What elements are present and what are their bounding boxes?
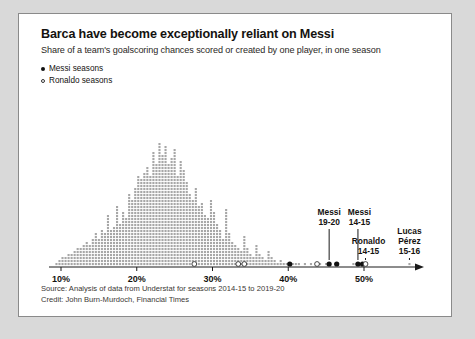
- dot-mark: [137, 260, 139, 262]
- dot-mark: [180, 170, 182, 172]
- dot-mark: [204, 236, 206, 238]
- dot-mark: [128, 260, 130, 262]
- dot-mark: [177, 227, 179, 229]
- dot-mark: [113, 236, 115, 238]
- dot-mark: [110, 236, 112, 238]
- dot-mark: [83, 260, 85, 262]
- dot-mark: [228, 236, 230, 238]
- dot-mark: [225, 227, 227, 229]
- dot-mark: [183, 200, 185, 202]
- dot-mark: [164, 239, 166, 241]
- dot-mark: [183, 236, 185, 238]
- dot-mark: [255, 245, 257, 247]
- dot-mark: [116, 263, 118, 265]
- dot-mark: [319, 263, 321, 265]
- dot-mark: [164, 203, 166, 205]
- dot-mark: [77, 251, 79, 253]
- dot-mark: [168, 173, 170, 175]
- dot-mark: [155, 206, 157, 208]
- x-tick-label: 10%: [52, 274, 70, 284]
- dot-mark: [180, 203, 182, 205]
- dot-mark: [171, 242, 173, 244]
- dot-mark: [240, 260, 242, 262]
- dot-mark: [161, 212, 163, 214]
- dot-mark: [204, 245, 206, 247]
- dot-mark: [164, 242, 166, 244]
- dot-mark: [158, 251, 160, 253]
- dot-mark: [155, 185, 157, 187]
- dot-mark: [207, 221, 209, 223]
- dot-mark: [186, 188, 188, 190]
- dot-mark: [180, 260, 182, 262]
- dot-mark: [295, 263, 297, 265]
- dot-mark: [161, 251, 163, 253]
- dot-mark: [92, 254, 94, 256]
- dot-mark: [140, 197, 142, 199]
- dot-mark: [128, 251, 130, 253]
- dot-mark: [174, 254, 176, 256]
- dot-mark: [149, 212, 151, 214]
- dot-mark: [158, 209, 160, 211]
- dot-mark: [195, 248, 197, 250]
- dot-mark: [186, 209, 188, 211]
- dot-mark: [95, 242, 97, 244]
- dot-mark: [210, 260, 212, 262]
- dot-mark: [119, 248, 121, 250]
- dot-mark: [237, 263, 239, 265]
- dot-mark: [283, 263, 285, 265]
- dot-mark: [107, 215, 109, 217]
- dot-mark: [164, 185, 166, 187]
- dot-mark: [174, 149, 176, 151]
- dot-mark: [174, 251, 176, 253]
- dot-mark: [171, 158, 173, 160]
- dot-mark: [177, 245, 179, 247]
- dot-mark: [137, 179, 139, 181]
- dot-mark: [171, 257, 173, 259]
- dot-mark: [131, 206, 133, 208]
- dot-mark: [113, 242, 115, 244]
- dot-mark: [116, 254, 118, 256]
- dot-mark: [104, 245, 106, 247]
- dot-mark: [107, 248, 109, 250]
- dot-mark: [131, 263, 133, 265]
- dot-mark: [149, 230, 151, 232]
- dot-mark: [116, 233, 118, 235]
- dot-mark: [210, 245, 212, 247]
- dot-mark: [95, 257, 97, 259]
- legend-item-messi: Messi seasons: [41, 64, 103, 73]
- dot-mark: [219, 260, 221, 262]
- dot-mark: [180, 251, 182, 253]
- dot-mark: [180, 245, 182, 247]
- dot-mark: [155, 233, 157, 235]
- dot-mark: [143, 239, 145, 241]
- dot-mark: [225, 239, 227, 241]
- dot-mark: [110, 260, 112, 262]
- dot-mark: [216, 245, 218, 247]
- dot-mark: [186, 182, 188, 184]
- dot-mark: [152, 173, 154, 175]
- dot-mark: [231, 245, 233, 247]
- legend-label-ronaldo: Ronaldo seasons: [49, 76, 112, 85]
- dot-mark: [89, 260, 91, 262]
- dot-mark: [207, 245, 209, 247]
- dot-mark: [110, 242, 112, 244]
- dot-mark: [228, 254, 230, 256]
- dot-mark: [152, 194, 154, 196]
- dot-mark: [225, 260, 227, 262]
- dot-mark: [171, 179, 173, 181]
- dot-mark: [201, 218, 203, 220]
- dot-mark: [140, 233, 142, 235]
- dot-mark: [155, 176, 157, 178]
- dot-mark: [195, 251, 197, 253]
- dot-mark: [161, 203, 163, 205]
- dot-mark: [201, 242, 203, 244]
- dot-mark: [189, 251, 191, 253]
- dot-mark: [164, 164, 166, 166]
- dot-mark: [198, 248, 200, 250]
- annotation-line: Pérez: [379, 236, 439, 246]
- dot-mark: [122, 224, 124, 226]
- dot-mark: [195, 233, 197, 235]
- dot-mark: [116, 215, 118, 217]
- dot-mark: [146, 200, 148, 202]
- dot-mark: [152, 209, 154, 211]
